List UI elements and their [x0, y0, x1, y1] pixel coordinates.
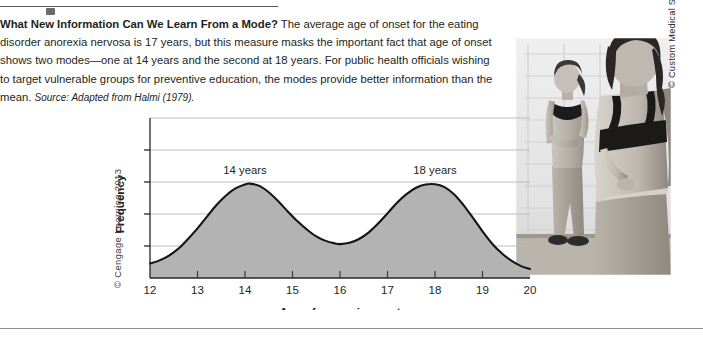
divider-marker-icon	[46, 8, 55, 15]
x-axis-tick-labels: 121314151617181920	[144, 284, 537, 296]
peak-annotation: 18 years	[413, 164, 457, 176]
peak-annotation: 14 years	[223, 164, 267, 176]
top-divider-rule	[0, 6, 278, 7]
x-tick-label: 18	[429, 284, 442, 296]
x-tick-label: 15	[286, 284, 299, 296]
bottom-divider-rule	[0, 328, 703, 329]
caption-body-text: The average age of onset for the eating …	[0, 18, 492, 103]
caption-source-text: Adapted from Halmi (1979).	[69, 92, 194, 103]
x-tick-label: 14	[239, 284, 252, 296]
x-tick-label: 16	[334, 284, 347, 296]
caption-source-label: Source:	[35, 92, 69, 103]
distribution-area	[150, 184, 530, 278]
x-tick-label: 19	[476, 284, 489, 296]
x-tick-label: 17	[381, 284, 394, 296]
chart-svg: 121314151617181920 14 years18 years Age …	[0, 110, 703, 310]
x-tick-label: 20	[524, 284, 537, 296]
chart-annotations: 14 years18 years	[223, 164, 457, 176]
photo-credit: © Custom Medical Stock Photo/Alamy	[667, 0, 677, 88]
figure-caption: What New Information Can We Learn From a…	[0, 15, 500, 107]
y-axis-ticks	[144, 150, 150, 246]
x-tick-label: 12	[144, 284, 157, 296]
caption-heading: What New Information Can We Learn From a…	[0, 18, 278, 30]
x-tick-label: 13	[191, 284, 204, 296]
x-axis-title: Age of anorexia onset	[279, 305, 400, 310]
frequency-distribution-chart: 121314151617181920 14 years18 years Age …	[0, 110, 703, 310]
cengage-copyright: © Cengage Learning 2013	[112, 169, 123, 288]
